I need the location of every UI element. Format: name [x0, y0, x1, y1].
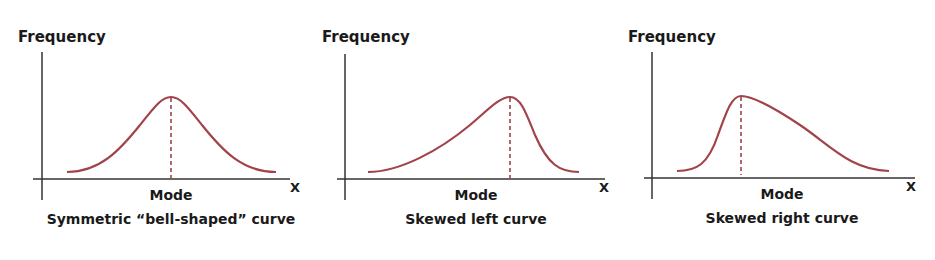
panel-skewed-left: Frequency X Mode Skewed left curve	[322, 28, 609, 227]
distribution-curve	[677, 96, 889, 171]
distribution-diagrams: Frequency X Mode Symmetric “bell-shaped”…	[0, 0, 935, 260]
mode-label: Mode	[454, 187, 497, 203]
mode-label: Mode	[149, 187, 192, 203]
panel-symmetric: Frequency X Mode Symmetric “bell-shaped”…	[18, 28, 300, 227]
panel-skewed-right: Frequency X Mode Skewed right curve	[628, 28, 916, 226]
caption: Skewed left curve	[405, 211, 547, 227]
y-axis-label: Frequency	[628, 28, 716, 46]
x-axis-label: X	[599, 180, 609, 195]
distribution-curve	[368, 97, 579, 172]
mode-label: Mode	[760, 186, 803, 202]
caption: Skewed right curve	[706, 210, 859, 226]
y-axis-label: Frequency	[18, 28, 106, 46]
x-axis-label: X	[290, 180, 300, 195]
y-axis-label: Frequency	[322, 28, 410, 46]
caption: Symmetric “bell-shaped” curve	[47, 211, 296, 227]
x-axis-label: X	[906, 179, 916, 194]
